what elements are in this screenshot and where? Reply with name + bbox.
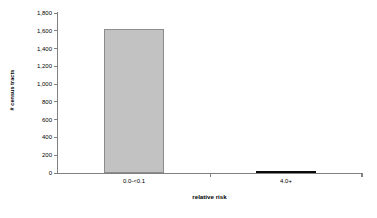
- bar-4.0+[interactable]: [256, 171, 317, 174]
- plot-area: [58, 13, 362, 173]
- bar-slot: [256, 13, 317, 173]
- y-axis-tick-label: 400: [42, 134, 54, 140]
- y-axis-tick-label: 1,600: [37, 28, 54, 34]
- x-axis-category-label: 4.0+: [210, 178, 362, 184]
- y-axis-tick-label: 1,400: [37, 46, 54, 52]
- bar-chart: # census tracts 02004006008001,0001,2001…: [0, 0, 377, 218]
- y-axis-tick-label: 800: [42, 99, 54, 105]
- y-axis-title: # census tracts: [4, 0, 20, 180]
- x-axis-category-label: 0.0-<0.1: [58, 178, 210, 184]
- bar-0.0-<0.1[interactable]: [104, 29, 165, 173]
- y-axis-tick-label: 1,000: [37, 81, 54, 87]
- y-axis-tick-label: 1,800: [37, 10, 54, 16]
- y-axis-tick-label: 1,200: [37, 63, 54, 69]
- y-axis-ticks: 02004006008001,0001,2001,4001,6001,800: [20, 13, 57, 173]
- y-axis-tick-label: 600: [42, 117, 54, 123]
- y-axis-tick-label: 200: [42, 152, 54, 158]
- x-axis-tick-mark: [362, 173, 363, 177]
- y-axis-title-text: # census tracts: [9, 70, 15, 111]
- bar-slot: [104, 13, 165, 173]
- x-axis-tick-mark: [210, 173, 211, 177]
- x-axis-title: relative risk: [57, 193, 362, 200]
